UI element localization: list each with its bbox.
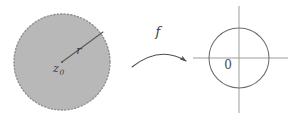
source-disk-group: r z 0: [14, 14, 110, 110]
radius-label: r: [76, 44, 82, 57]
figure-canvas: r z 0 f 0: [0, 0, 294, 120]
center-label-z: z: [52, 62, 59, 75]
target-plane-group: 0: [193, 6, 288, 113]
math-figure: r z 0 f 0: [0, 0, 294, 120]
map-arrow-curve: [132, 54, 186, 67]
origin-label: 0: [224, 58, 232, 72]
map-arrow-group: f: [132, 24, 186, 67]
center-label-subscript: 0: [60, 68, 65, 77]
map-arrow-label: f: [155, 24, 163, 39]
disk-center-dot: [61, 61, 63, 63]
